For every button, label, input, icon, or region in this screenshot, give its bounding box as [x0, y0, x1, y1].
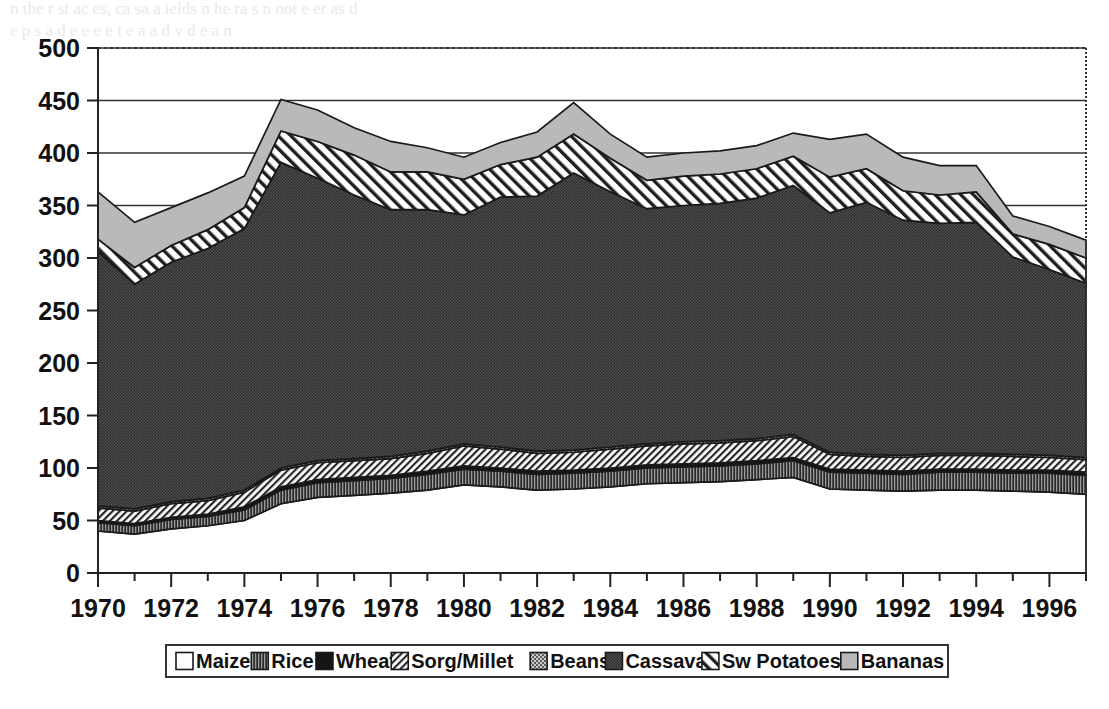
x-tick-label-1996: 1996	[1022, 594, 1078, 622]
y-tick-label-250: 250	[38, 297, 80, 325]
y-tick-label-150: 150	[38, 402, 80, 430]
y-axis-ticks: 050100150200250300350400450500	[38, 34, 98, 587]
x-tick-label-1972: 1972	[143, 594, 199, 622]
x-tick-label-1986: 1986	[656, 594, 712, 622]
x-tick-label-1982: 1982	[509, 594, 565, 622]
x-tick-label-1992: 1992	[875, 594, 931, 622]
stacked-area-chart: n the r st ac es, ca sa a ields n he ra …	[0, 0, 1109, 709]
x-tick-label-1980: 1980	[436, 594, 492, 622]
legend-label-maize: Maize	[196, 650, 250, 672]
y-tick-label-200: 200	[38, 349, 80, 377]
y-tick-label-350: 350	[38, 192, 80, 220]
y-tick-label-50: 50	[52, 507, 80, 535]
legend-label-rice: Rice	[271, 650, 313, 672]
legend-items: MaizeRiceWheatSorg/MilletBeansCassavaSw …	[176, 650, 944, 672]
legend-label-bananas: Bananas	[861, 650, 944, 672]
y-tick-label-0: 0	[66, 559, 80, 587]
y-tick-label-300: 300	[38, 244, 80, 272]
y-tick-label-100: 100	[38, 454, 80, 482]
y-tick-label-450: 450	[38, 87, 80, 115]
legend-label-beans: Beans	[550, 650, 610, 672]
swatch-sorg-millet	[391, 653, 408, 670]
x-tick-label-1970: 1970	[70, 594, 126, 622]
swatch-bananas	[841, 653, 858, 670]
x-tick-label-1990: 1990	[802, 594, 858, 622]
legend: MaizeRiceWheatSorg/MilletBeansCassavaSw …	[166, 645, 948, 677]
swatch-beans	[530, 653, 547, 670]
x-tick-label-1994: 1994	[948, 594, 1004, 622]
legend-label-sw-potatoes: Sw Potatoes	[722, 650, 841, 672]
bleed-line-1: n the r st ac es, ca sa a ields n he ra …	[10, 0, 358, 18]
x-tick-label-1984: 1984	[582, 594, 638, 622]
swatch-sw-potatoes	[702, 653, 719, 670]
swatch-maize	[176, 653, 193, 670]
x-tick-label-1978: 1978	[363, 594, 419, 622]
series-areas	[98, 99, 1086, 573]
x-tick-label-1974: 1974	[217, 594, 273, 622]
legend-label-wheat: Wheat	[336, 650, 396, 672]
swatch-cassava	[605, 653, 622, 670]
x-tick-label-1988: 1988	[729, 594, 785, 622]
chart-root: n the r st ac es, ca sa a ields n he ra …	[0, 0, 1109, 709]
y-tick-label-400: 400	[38, 139, 80, 167]
legend-label-cassava: Cassava	[625, 650, 707, 672]
x-axis-ticks: 1970197219741976197819801982198419861988…	[70, 573, 1086, 622]
x-tick-label-1976: 1976	[290, 594, 346, 622]
legend-label-sorg-millet: Sorg/Millet	[411, 650, 514, 672]
swatch-rice	[251, 653, 268, 670]
swatch-wheat	[316, 653, 333, 670]
y-tick-label-500: 500	[38, 34, 80, 62]
